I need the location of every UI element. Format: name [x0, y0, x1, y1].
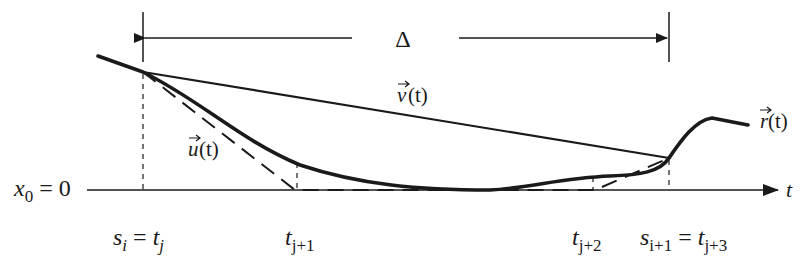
interval-label: Δ [395, 26, 410, 52]
label-u-arg: (t) [199, 137, 219, 161]
origin-label: x0 = 0 [13, 175, 71, 206]
origin-sub: 0 [25, 187, 34, 206]
label-r: r (t) [760, 107, 788, 133]
svg-text:x0 = 0: x0 = 0 [13, 175, 71, 206]
origin-rest: = 0 [33, 175, 71, 201]
trajectory-diagram: Δ v (t) u (t) r (t) x0 = 0 t si = t [0, 0, 806, 260]
tick-label-tj1: tj+1 [285, 224, 314, 255]
axis-variable-label: t [786, 177, 793, 202]
origin-var: x [13, 175, 25, 201]
label-v: v (t) [397, 81, 428, 107]
label-r-arg: (t) [768, 109, 788, 133]
label-v-arg: (t) [408, 83, 428, 107]
tick-label-si: si = tj [113, 224, 164, 255]
label-u: u (t) [188, 135, 219, 161]
tick-label-si1: si+1 = tj+3 [640, 224, 727, 255]
interval-bracket: Δ [143, 12, 669, 62]
curve-r [98, 56, 748, 190]
tick-label-tj2: tj+2 [572, 224, 601, 255]
